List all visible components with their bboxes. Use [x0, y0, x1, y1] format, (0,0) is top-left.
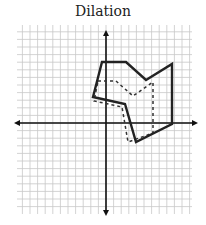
coordinate-plane: [0, 0, 206, 225]
y-axis-down-arrow-icon: [103, 210, 109, 216]
grid-lines: [17, 25, 192, 214]
original-figure-solid: [93, 62, 172, 142]
axes: [14, 30, 198, 216]
x-axis-left-arrow-icon: [14, 120, 20, 126]
y-axis-up-arrow-icon: [103, 30, 109, 36]
x-axis-right-arrow-icon: [192, 120, 198, 126]
